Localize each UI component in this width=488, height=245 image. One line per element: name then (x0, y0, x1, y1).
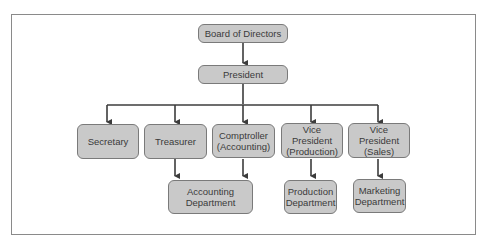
node-accounting-department: Accounting Department (168, 180, 253, 214)
node-board-of-directors: Board of Directors (198, 24, 288, 43)
node-treasurer: Treasurer (144, 124, 207, 159)
node-production-department: Production Department (284, 180, 337, 214)
node-secretary: Secretary (77, 124, 139, 159)
node-vp-production: Vice President (Production) (281, 123, 343, 158)
node-vp-sales: Vice President (Sales) (348, 123, 410, 158)
node-comptroller: Comptroller (Accounting) (212, 124, 275, 158)
node-marketing-department: Marketing Department (353, 179, 406, 213)
node-president: President (198, 65, 288, 84)
